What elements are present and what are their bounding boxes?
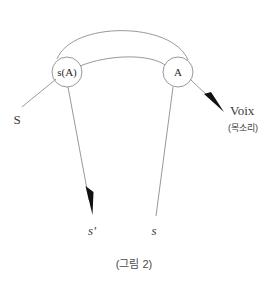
- output-label-s-prime: s': [88, 223, 96, 238]
- right-node-label: A: [174, 66, 182, 78]
- edge-input-curve: [22, 79, 56, 107]
- output-label-voix: Voix: [230, 103, 255, 118]
- edge-right-output-line: [156, 87, 173, 216]
- figure-caption: (그림 2): [116, 258, 153, 270]
- edge-inner-arc: [80, 57, 165, 66]
- input-label-s: S: [13, 112, 20, 127]
- diagram-canvas: s(A) A S s' s Voix (목소리) (그림 2): [0, 0, 274, 286]
- output-label-s: s: [151, 223, 156, 238]
- voice-arrowhead: [204, 92, 224, 112]
- left-node-label: s(A): [57, 66, 77, 79]
- edge-outer-arc: [57, 31, 188, 60]
- edge-left-output-line: [68, 87, 89, 200]
- output-label-voix-korean: (목소리): [228, 123, 258, 133]
- figure-container: s(A) A S s' s Voix (목소리) (그림 2): [0, 0, 274, 286]
- left-output-arrowhead: [86, 186, 94, 215]
